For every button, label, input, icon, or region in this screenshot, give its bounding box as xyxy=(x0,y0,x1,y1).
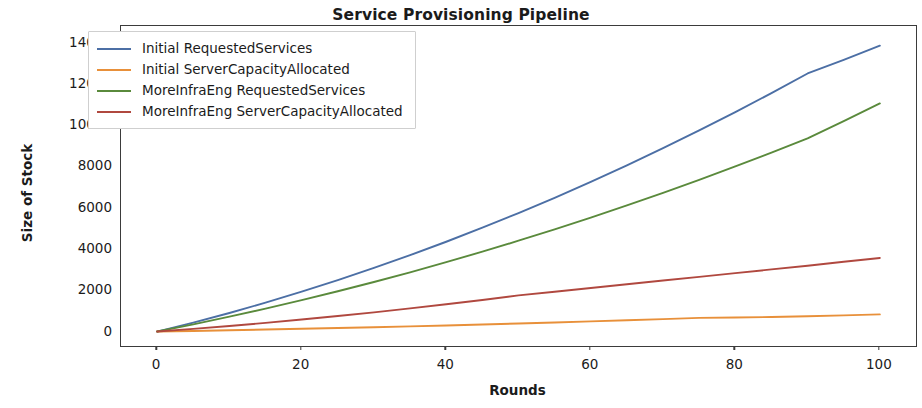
legend-item[interactable]: Initial ServerCapacityAllocated xyxy=(97,59,403,80)
x-tick-label: 80 xyxy=(726,356,743,372)
legend-color-swatch xyxy=(97,69,131,71)
legend-item-label: MoreInfraEng RequestedServices xyxy=(142,84,365,98)
chart-legend: Initial RequestedServicesInitial ServerC… xyxy=(88,31,416,129)
chart-figure: Service Provisioning Pipeline Size of St… xyxy=(0,0,922,408)
legend-item-label: MoreInfraEng ServerCapacityAllocated xyxy=(142,105,403,119)
x-tick-label: 0 xyxy=(152,356,161,372)
y-tick-label: 0 xyxy=(42,323,112,339)
y-tick-label: 6000 xyxy=(42,199,112,215)
x-tick-label: 20 xyxy=(292,356,309,372)
x-axis-label: Rounds xyxy=(120,382,915,398)
x-tick-label: 40 xyxy=(437,356,454,372)
y-tick-label: 2000 xyxy=(42,281,112,297)
y-tick-label: 4000 xyxy=(42,240,112,256)
y-axis-label: Size of Stock xyxy=(19,118,35,268)
legend-item[interactable]: MoreInfraEng ServerCapacityAllocated xyxy=(97,101,403,122)
legend-item-label: Initial ServerCapacityAllocated xyxy=(142,63,350,77)
y-tick-label: 8000 xyxy=(42,157,112,173)
legend-item[interactable]: Initial RequestedServices xyxy=(97,38,403,59)
legend-color-swatch xyxy=(97,90,131,92)
legend-color-swatch xyxy=(97,48,131,50)
legend-item[interactable]: MoreInfraEng RequestedServices xyxy=(97,80,403,101)
legend-item-label: Initial RequestedServices xyxy=(142,42,312,56)
series-line xyxy=(157,103,880,331)
series-line xyxy=(157,258,880,332)
legend-color-swatch xyxy=(97,111,131,113)
x-tick-label: 60 xyxy=(581,356,598,372)
x-tick-label: 100 xyxy=(866,356,892,372)
chart-title: Service Provisioning Pipeline xyxy=(0,6,922,24)
